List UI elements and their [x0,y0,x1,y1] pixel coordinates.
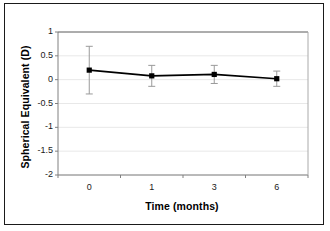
data-line-series [89,70,277,79]
x-tick-label: 0 [74,182,104,192]
chart-plot-area [5,4,325,226]
y-tick-label: 0.5 [19,50,53,60]
gridlines [58,32,308,175]
axis-ticks [55,32,308,178]
figure-frame: Spherical Equivalent (D) Time (months) 1… [4,3,324,225]
error-bars [86,46,281,94]
y-tick-label: 1 [19,26,53,36]
x-axis-title: Time (months) [57,200,307,212]
y-tick-label: -2 [19,169,53,179]
y-tick-label: -0.5 [19,98,53,108]
x-tick-label: 1 [137,182,167,192]
y-tick-label: 0 [19,74,53,84]
y-tick-label: -1.5 [19,145,53,155]
x-tick-label: 6 [262,182,292,192]
x-tick-label: 3 [199,182,229,192]
y-tick-label: -1 [19,121,53,131]
